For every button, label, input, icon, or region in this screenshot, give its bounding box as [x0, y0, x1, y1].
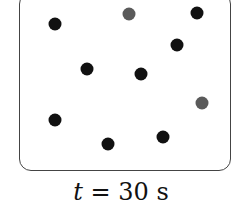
particle-black [171, 39, 184, 52]
particle-black [102, 138, 115, 151]
time-label: t = 30 s [0, 178, 234, 206]
particle-black [157, 131, 170, 144]
particle-gray [196, 97, 209, 110]
particle-gray [123, 8, 136, 21]
particle-black [49, 114, 62, 127]
particle-black [81, 63, 94, 76]
particle-black [135, 68, 148, 81]
time-variable: t [73, 178, 83, 206]
particle-black [49, 18, 62, 31]
particle-black [191, 7, 204, 20]
time-value: = 30 s [83, 178, 169, 206]
